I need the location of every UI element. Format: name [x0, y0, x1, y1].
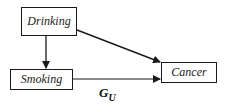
edge-drinking-to-cancer	[77, 30, 160, 62]
graph-label: GU	[99, 86, 116, 103]
node-cancer: Cancer	[161, 62, 217, 83]
node-drinking-label: Drinking	[27, 14, 70, 29]
graph-label-main: G	[99, 85, 108, 100]
node-smoking: Smoking	[10, 69, 73, 90]
node-drinking: Drinking	[21, 7, 77, 36]
causal-diagram: Drinking Smoking Cancer GU	[0, 0, 229, 108]
node-smoking-label: Smoking	[21, 72, 62, 87]
node-cancer-label: Cancer	[171, 65, 206, 80]
graph-label-subscript: U	[108, 92, 115, 103]
